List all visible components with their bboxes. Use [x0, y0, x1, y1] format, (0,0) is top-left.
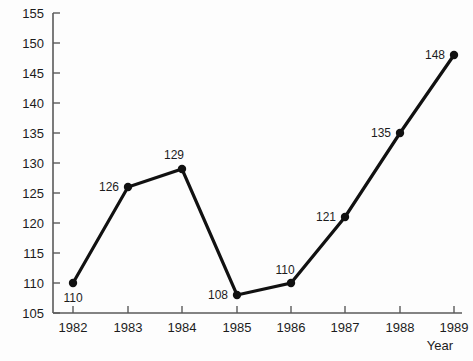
data-point-value-label: 129	[164, 148, 184, 162]
x-axis-title: Year	[427, 338, 454, 353]
x-axis-tick-label: 1985	[223, 320, 252, 335]
y-axis-tick-label: 115	[23, 246, 44, 261]
y-axis-tick-label: 145	[22, 66, 44, 81]
data-point-marker	[178, 165, 186, 173]
data-point-value-label: 108	[208, 288, 228, 302]
y-axis-tick-label: 135	[22, 126, 44, 141]
y-axis-tick-label: 125	[22, 186, 44, 201]
line-chart-figure: 105110115120125130135140145150155 198219…	[0, 0, 473, 361]
data-point-value-label: 121	[316, 210, 336, 224]
y-axis-tick-label: 120	[22, 216, 44, 231]
y-axis-tick-label: 110	[23, 276, 44, 291]
x-axis-tick-label: 1982	[59, 320, 88, 335]
y-axis-tick-label: 155	[22, 6, 44, 21]
data-point-marker	[450, 51, 458, 59]
data-point-value-label: 126	[99, 180, 119, 194]
data-point-marker	[69, 279, 77, 287]
x-axis-tick-label: 1986	[277, 320, 306, 335]
x-axis-tick-label: 1988	[386, 320, 415, 335]
data-point-marker	[124, 183, 132, 191]
data-point-marker	[341, 213, 349, 221]
y-axis-tick-label: 105	[22, 306, 44, 321]
data-point-value-label: 110	[63, 291, 82, 305]
x-axis-tick-label: 1984	[168, 320, 197, 335]
data-point-value-label: 135	[371, 126, 391, 140]
y-axis-tick-label: 150	[22, 36, 44, 51]
x-axis-tick-label: 1989	[440, 320, 469, 335]
y-axis-tick-label: 130	[22, 156, 44, 171]
data-point-value-label: 110	[275, 263, 294, 277]
x-axis-tick-label: 1983	[114, 320, 143, 335]
x-axis-tick-label: 1987	[331, 320, 360, 335]
chart-canvas: 105110115120125130135140145150155 198219…	[0, 0, 473, 361]
data-point-marker	[233, 291, 241, 299]
data-point-marker	[287, 279, 295, 287]
data-point-value-label: 148	[425, 48, 445, 62]
data-point-marker	[396, 129, 404, 137]
y-axis-tick-label: 140	[22, 96, 44, 111]
